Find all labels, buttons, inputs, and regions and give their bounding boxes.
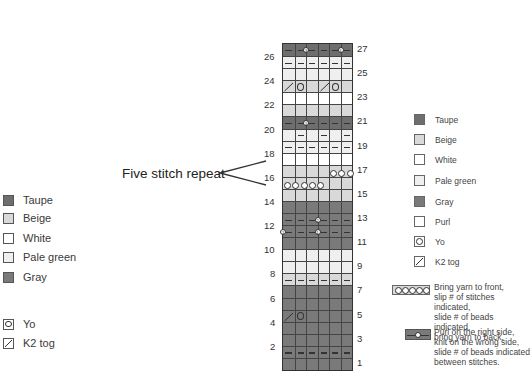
chart-cell (329, 117, 341, 128)
chart-cell (283, 81, 295, 92)
chart-cell (295, 57, 307, 68)
chart-cell (283, 347, 295, 358)
legend-label: Pale green (23, 251, 76, 263)
chart-cell (318, 57, 330, 68)
row-number-5: 5 (357, 309, 362, 320)
chart-cell (306, 238, 318, 249)
chart-cell (329, 274, 341, 285)
chart-cell (341, 226, 353, 237)
chart-cell (306, 190, 318, 201)
chart-cell (341, 117, 353, 128)
chart-cell (306, 274, 318, 285)
chart-row-26 (283, 56, 352, 68)
row-number-10: 10 (264, 244, 275, 255)
purl-dash-icon (285, 220, 292, 221)
legend-label: Taupe (23, 194, 53, 206)
chart-row-17 (283, 165, 352, 177)
yo-circle-icon (414, 236, 425, 247)
chart-cell (295, 214, 307, 225)
chart-cell (283, 44, 295, 56)
purl-dash-icon (298, 352, 304, 353)
color-swatch-icon (3, 252, 14, 263)
chart-cell (295, 286, 307, 297)
row-number-14: 14 (264, 196, 275, 207)
color-swatch-icon (414, 216, 425, 227)
k2tog-slash-icon (319, 81, 330, 92)
chart-cell (318, 323, 330, 334)
row-number-3: 3 (357, 333, 362, 344)
purl-dash-icon (332, 147, 338, 148)
slip-bead-icon (330, 170, 337, 177)
color-swatch-icon (3, 213, 14, 224)
purl-dash-icon (344, 232, 350, 233)
legend-label: Yo (23, 318, 35, 330)
chart-cell (306, 299, 318, 310)
slip-bead-icon (423, 287, 430, 294)
legend-label: Gray (23, 271, 47, 283)
slip-bead-icon (317, 182, 324, 189)
chart-cell (329, 359, 341, 370)
chart-cell (329, 105, 341, 116)
chart-cell (295, 299, 307, 310)
legend-item-gray: Gray (3, 271, 47, 283)
bead-icon: 1 (315, 229, 321, 235)
slip-bead-icon (416, 287, 423, 294)
slip-bead-icon (284, 182, 291, 189)
legend-item-beige: Beige (3, 212, 51, 224)
purl-dash-icon (321, 135, 327, 136)
purl-dash-icon (285, 123, 292, 124)
chart-cell (295, 202, 307, 213)
color-swatch-icon (3, 272, 14, 283)
right-legend-item-k2-tog: K2 tog (414, 256, 460, 267)
chart-cell (283, 202, 295, 213)
row-number-11: 11 (357, 236, 367, 247)
chart-cell (318, 130, 330, 141)
chart-cell (295, 262, 307, 273)
chart-row-4 (283, 322, 352, 334)
chart-row-6 (283, 298, 352, 310)
purl-dash-icon (285, 147, 292, 148)
row-number-19: 19 (357, 140, 368, 151)
repeat-bracket-icon (218, 158, 268, 188)
chart-cell (306, 311, 318, 322)
chart-cell (306, 335, 318, 346)
purl-dash-icon (332, 352, 338, 353)
chart-cell (306, 166, 318, 177)
bead-icon: 1 (338, 47, 344, 53)
legend-item-taupe: Taupe (3, 194, 53, 206)
chart-cell (341, 57, 353, 68)
chart-cell (306, 347, 318, 358)
chart-cell (295, 190, 307, 201)
chart-cell (306, 262, 318, 273)
chart-row-5 (283, 310, 352, 322)
chart-cell (329, 311, 341, 322)
chart-cell (306, 323, 318, 334)
row-number-20: 20 (264, 124, 275, 135)
purl-dash-icon (309, 63, 315, 64)
slip-bead-icon (409, 287, 416, 294)
slip-bead-icon (402, 287, 409, 294)
chart-cell (341, 130, 353, 141)
chart-row-11 (283, 237, 352, 249)
yo-circle (416, 238, 423, 245)
purl-dash-icon (298, 232, 304, 233)
chart-cell (283, 214, 295, 225)
row-number-21: 21 (357, 115, 368, 126)
chart-cell (318, 299, 330, 310)
chart-cell (283, 286, 295, 297)
row-number-22: 22 (264, 99, 275, 110)
chart-cell (306, 202, 318, 213)
yo-circle-icon (332, 83, 339, 91)
purl-dash-icon (298, 280, 304, 281)
color-swatch-icon (414, 134, 425, 145)
purl-dash-icon (332, 220, 338, 221)
purl-dash-icon (344, 147, 350, 148)
chart-row-19 (283, 141, 352, 153)
chart-cell (283, 311, 295, 322)
chart-cell (341, 238, 353, 249)
chart-row-8 (283, 273, 352, 285)
purl-dash-icon (332, 280, 338, 281)
chart-cell (306, 130, 318, 141)
chart-cell (341, 190, 353, 201)
legend-item-white: White (3, 232, 51, 244)
